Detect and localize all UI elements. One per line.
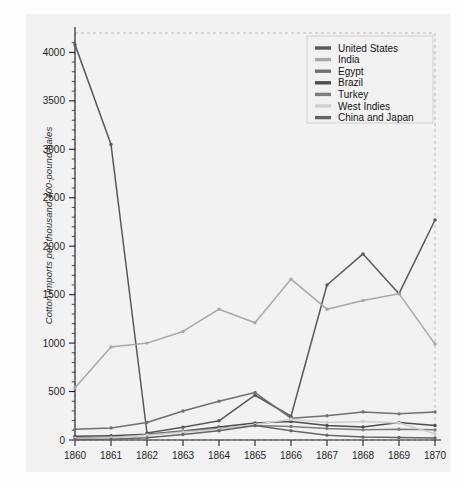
line-chart: 0500100015002000250030003500400018601861… [26,14,450,472]
x-tick-label: 1869 [388,450,411,461]
y-tick-label: 1500 [43,289,66,300]
legend-label: China and Japan [338,112,414,123]
x-tick-label: 1867 [316,450,339,461]
y-tick-label: 1000 [43,338,66,349]
chart-canvas: Cotton imports per thousand 400-pound ba… [0,0,464,488]
series-india [73,277,436,389]
y-tick-label: 3500 [43,95,66,106]
y-tick-label: 4000 [43,47,66,58]
x-tick-label: 1870 [424,450,447,461]
y-tick-label: 2000 [43,241,66,252]
y-tick-label: 500 [48,386,65,397]
y-tick-label: 2500 [43,192,66,203]
legend-label: Egypt [338,66,364,77]
legend-label: India [338,54,360,65]
legend-label: United States [338,43,398,54]
legend-label: Brazil [338,77,363,88]
x-tick-label: 1864 [208,450,231,461]
x-tick-label: 1866 [280,450,303,461]
x-tick-label: 1860 [64,450,87,461]
plot-card: Cotton imports per thousand 400-pound ba… [26,14,450,472]
legend-label: Turkey [338,89,368,100]
series-china-and-japan [73,424,436,441]
y-tick-label: 3000 [43,144,66,155]
x-tick-label: 1868 [352,450,375,461]
x-tick-label: 1863 [172,450,195,461]
x-tick-label: 1862 [136,450,159,461]
x-tick-label: 1865 [244,450,267,461]
legend-label: West Indies [338,101,390,112]
chart-legend: United StatesIndiaEgyptBrazilTurkeyWest … [307,36,433,123]
x-tick-label: 1861 [100,450,123,461]
y-tick-label: 0 [59,435,65,446]
